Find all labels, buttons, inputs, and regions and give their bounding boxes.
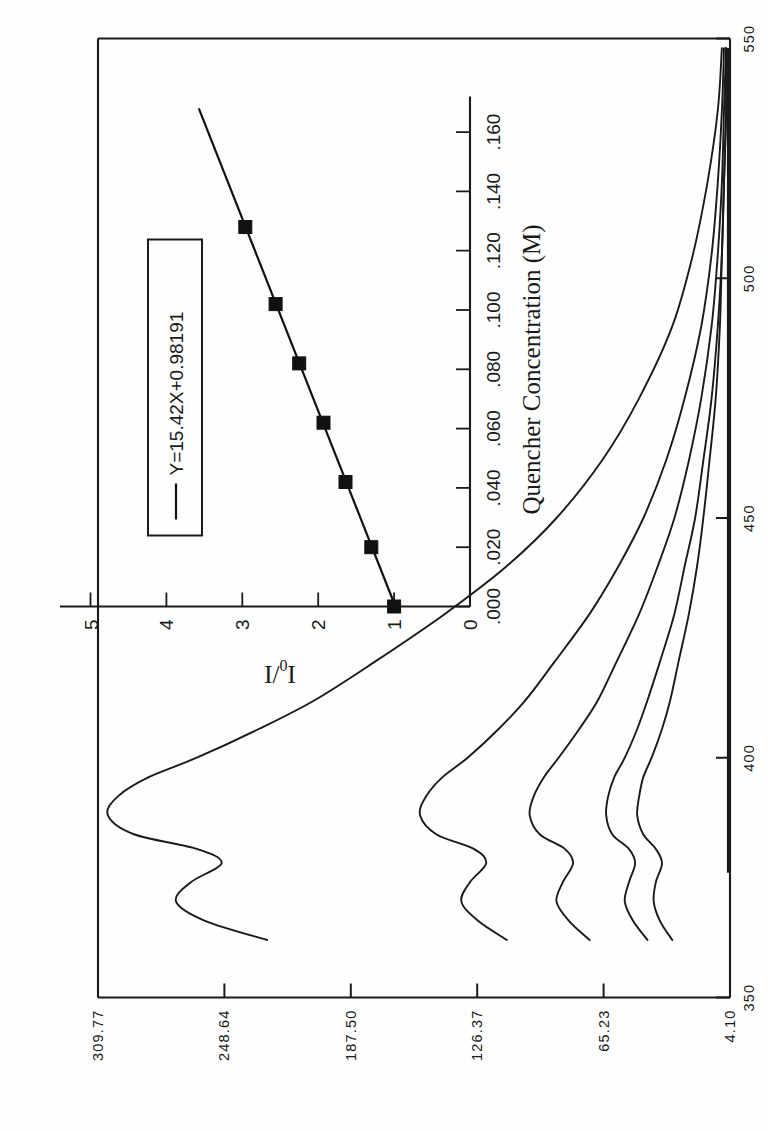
inset-xtick-080: .080 (483, 350, 504, 387)
inset-ylabel-I0: I (287, 660, 295, 687)
main-ytick-248-64: 248.64 (216, 1009, 232, 1061)
inset-ytick-4: 4 (156, 619, 177, 630)
inset-xtick-100: .100 (483, 291, 504, 328)
rotated-figure-container: 350 400 450 500 550 WAVELENGTH (NM) (0, 0, 768, 1131)
inset-data-point-3 (317, 416, 330, 429)
main-ytick-309-77: 309.77 (90, 1009, 106, 1061)
main-xtick-400: 400 (741, 743, 757, 771)
inset-xtick-140: .140 (483, 172, 504, 209)
inset-ytick-2: 2 (308, 619, 329, 630)
inset-xtick-160: .160 (483, 113, 504, 150)
inset-ytick-3: 3 (232, 619, 253, 630)
inset-ytick-0: 0 (460, 619, 481, 630)
main-plot-frame (98, 38, 730, 997)
inset-data-point-1 (365, 540, 378, 553)
inset-xtick-120: .120 (483, 232, 504, 269)
inset-data-point-2 (339, 475, 352, 488)
main-ytick-65-23: 65.23 (596, 1009, 612, 1051)
fluorescence-quenching-figure: 350 400 450 500 550 WAVELENGTH (NM) (0, 0, 768, 1131)
inset-data-point-5 (269, 297, 282, 310)
inset-xtick-060: .060 (483, 410, 504, 447)
main-xtick-500: 500 (741, 264, 757, 292)
inset-fit-line-and-points (199, 108, 401, 613)
inset-data-point-6 (239, 220, 252, 233)
figure-page: 350 400 450 500 550 WAVELENGTH (NM) (0, 0, 768, 1131)
inset-xaxis-ticklabels: .000 .020 .040 .060 .080 .100 .120 .140 … (483, 113, 504, 624)
inset-data-point-0 (388, 600, 401, 613)
inset-legend: Y=15.42X+0.98191 (148, 239, 202, 535)
inset-yaxis-ticks (91, 592, 471, 606)
main-yaxis-ticklabels: 4.10 65.23 126.37 187.50 248.64 309.77 (90, 1009, 738, 1061)
spectrum-curve-2 (529, 48, 726, 940)
legend-equation-label: Y=15.42X+0.98191 (166, 311, 187, 475)
spectrum-curve-1 (420, 48, 724, 940)
inset-xtick-040: .040 (483, 469, 504, 506)
svg-text:I0/I: I0/I (264, 656, 296, 687)
main-ytick-187-50: 187.50 (343, 1009, 359, 1061)
main-yaxis-ticks (98, 983, 730, 997)
spectrum-curve-0 (107, 48, 722, 940)
inset-ytick-1: 1 (384, 619, 405, 630)
figure-canvas: 350 400 450 500 550 WAVELENGTH (NM) (0, 0, 768, 1131)
inset-stern-volmer-plot: .000 .020 .040 .060 .080 .100 .120 .140 … (60, 96, 546, 687)
inset-data-point-4 (293, 356, 306, 369)
main-xtick-550: 550 (741, 24, 757, 52)
inset-xtick-020: .020 (483, 528, 504, 565)
inset-yaxis-ticklabels: 0 1 2 3 4 5 (81, 619, 482, 630)
inset-xaxis-title: Quencher Concentration (M) (518, 224, 546, 514)
inset-xaxis-ticks (456, 132, 470, 606)
main-xaxis-ticklabels: 350 400 450 500 550 (741, 24, 757, 1011)
inset-yaxis-title: I0/I (264, 656, 296, 687)
inset-ytick-5: 5 (81, 619, 102, 630)
main-ytick-4-10: 4.10 (722, 1009, 738, 1042)
emission-spectra-curves (107, 48, 728, 940)
main-ytick-126-37: 126.37 (469, 1009, 485, 1061)
main-xtick-450: 450 (741, 504, 757, 532)
inset-xtick-000: .000 (483, 588, 504, 625)
main-xtick-350: 350 (741, 983, 757, 1011)
